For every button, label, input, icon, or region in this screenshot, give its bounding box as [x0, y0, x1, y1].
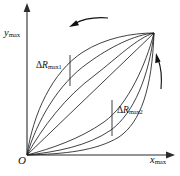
- x-axis-arrow-head: [166, 152, 175, 159]
- y-axis: [24, 3, 31, 155]
- figure-container: ymax xmax O ΔRmax1 ΔRmax2: [0, 0, 180, 176]
- y-axis-label: ymax: [4, 28, 20, 39]
- origin-label: O: [18, 155, 26, 166]
- y-axis-arrow-head: [24, 3, 31, 12]
- delta-r-max1-label: ΔRmax1: [36, 61, 62, 71]
- delta-r-max2-label: ΔRmax2: [117, 106, 143, 116]
- r-subscript-2: max2: [129, 108, 143, 115]
- x-axis-label-sub: max: [155, 158, 166, 165]
- top-rotation-arrow: [69, 18, 108, 27]
- curve-family: [27, 33, 154, 155]
- r-subscript-1: max1: [48, 63, 62, 70]
- x-axis-label: xmax: [150, 155, 166, 166]
- diagram-canvas: [0, 0, 180, 176]
- y-axis-label-sub: max: [9, 31, 20, 38]
- right-rotation-arrow: [155, 53, 161, 89]
